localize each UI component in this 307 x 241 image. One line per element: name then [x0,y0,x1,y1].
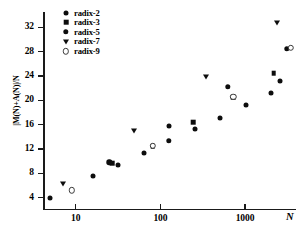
data-point-radix-2 [167,123,172,128]
legend-label: radix-3 [74,18,100,27]
x-tick-label: 10 [71,214,80,224]
data-point-radix-7 [203,75,209,80]
x-tick-mark [160,204,161,210]
x-tick-mark [75,204,76,210]
legend-item-radix-3[interactable]: radix-3 [62,18,100,28]
y-tick-mark [38,27,44,28]
y-tick-label: 32 [0,22,34,32]
y-tick-label-wrap: 4 [0,193,34,203]
data-point-radix-2 [218,115,223,120]
legend-marker-icon [62,46,74,56]
data-point-radix-2 [116,162,121,167]
legend: radix-2radix-3radix-5radix-7radix-9 [62,8,100,56]
y-tick-mark [38,197,44,198]
data-point-radix-2 [141,150,146,155]
data-point-radix-7 [131,128,137,133]
legend-label: radix-2 [74,9,100,18]
data-point-radix-2 [48,195,53,200]
y-tick-label-wrap: 8 [0,168,34,178]
y-axis-title: |M(N)+A(N)|/N [12,41,21,161]
y-axis-line [43,12,45,210]
legend-marker-icon [62,27,74,37]
legend-item-radix-9[interactable]: radix-9 [62,46,100,56]
y-tick-label: 4 [0,193,34,203]
legend-label: radix-9 [74,47,100,56]
x-tick-mark [244,204,245,210]
y-tick-mark [38,51,44,52]
legend-marker-icon [62,18,74,28]
data-point-radix-5 [166,138,171,143]
data-point-radix-2 [278,78,283,83]
y-tick-mark [38,75,44,76]
legend-marker-icon [62,8,74,18]
data-point-radix-5 [225,84,230,89]
data-point-radix-7 [274,20,280,25]
data-point-radix-2 [243,102,248,107]
data-point-radix-9 [69,187,75,193]
y-tick-label-wrap: 32 [0,22,34,32]
x-tick-label: 100 [153,214,167,224]
x-axis-title: N [286,212,294,223]
y-tick-mark [38,124,44,125]
data-point-radix-2 [269,90,274,95]
data-point-radix-9 [288,45,294,51]
legend-item-radix-7[interactable]: radix-7 [62,37,100,47]
legend-label: radix-5 [74,28,100,37]
x-tick-label: 1000 [236,214,255,224]
y-tick-label: 8 [0,168,34,178]
data-point-radix-7 [60,181,66,186]
y-tick-mark [38,100,44,101]
legend-label: radix-7 [74,37,100,46]
data-point-radix-2 [192,126,197,131]
y-tick-mark [38,173,44,174]
data-point-radix-3 [272,71,277,76]
legend-marker-icon [62,37,74,47]
data-point-radix-2 [90,173,95,178]
y-tick-mark [38,148,44,149]
x-axis-line [43,209,296,211]
data-point-radix-3 [191,120,196,125]
scatter-plot-figure: 48121620242832 101001000 |M(N)+A(N)|/N N… [0,0,307,241]
